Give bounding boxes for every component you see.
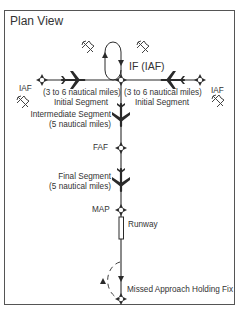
initial-left-distance: (3 to 6 nautical miles) bbox=[43, 88, 119, 98]
aircraft-icon-right bbox=[161, 71, 186, 89]
aircraft-outline-icon bbox=[17, 96, 29, 108]
if-label: IF (IAF) bbox=[129, 62, 165, 72]
intermediate-distance: (5 nautical miles) bbox=[18, 120, 111, 130]
approach-diagram bbox=[0, 0, 240, 319]
initial-right-name: Initial Segment bbox=[124, 98, 200, 108]
initial-right-distance: (3 to 6 nautical miles) bbox=[124, 88, 200, 98]
aircraft-outline-icon bbox=[82, 41, 94, 53]
initial-left-name: Initial Segment bbox=[43, 98, 119, 108]
hold-arrow-up-icon bbox=[102, 52, 108, 58]
iaf-left-fix-icon bbox=[36, 74, 48, 86]
missed-hold-fix-icon bbox=[115, 293, 127, 305]
aircraft-icon-left bbox=[61, 71, 86, 89]
faf-label: FAF bbox=[93, 143, 108, 153]
aircraft-outline-icon bbox=[137, 41, 149, 53]
missed-hold-label: Missed Approach Holding Fix bbox=[127, 285, 233, 295]
missed-hold-pattern bbox=[108, 262, 120, 299]
missed-arrow-down-icon bbox=[118, 276, 124, 282]
iaf-right-fix-icon bbox=[194, 74, 206, 86]
final-segment-label: Final Segment (5 nautical miles) bbox=[40, 172, 111, 191]
faf-fix-icon bbox=[115, 142, 127, 154]
runway-label: Runway bbox=[128, 220, 158, 230]
iaf-right-label: IAF bbox=[211, 86, 224, 96]
iaf-left-label: IAF bbox=[19, 84, 32, 94]
final-name: Final Segment bbox=[40, 172, 111, 182]
intermediate-name: Intermediate Segment bbox=[18, 110, 111, 120]
intermediate-segment-label: Intermediate Segment (5 nautical miles) bbox=[18, 110, 111, 129]
final-distance: (5 nautical miles) bbox=[40, 182, 111, 192]
map-label: MAP bbox=[92, 205, 110, 215]
initial-segment-left-label: (3 to 6 nautical miles) Initial Segment bbox=[43, 88, 119, 107]
initial-segment-right-label: (3 to 6 nautical miles) Initial Segment bbox=[124, 88, 200, 107]
missed-hold-arrow-icon bbox=[100, 278, 106, 284]
aircraft-icon-final bbox=[112, 168, 130, 191]
if-fix-icon bbox=[115, 74, 127, 86]
aircraft-outline-icon bbox=[212, 95, 224, 107]
map-fix-icon bbox=[115, 204, 127, 216]
runway-rect bbox=[119, 217, 124, 239]
hold-arrow-down-icon bbox=[118, 60, 124, 66]
